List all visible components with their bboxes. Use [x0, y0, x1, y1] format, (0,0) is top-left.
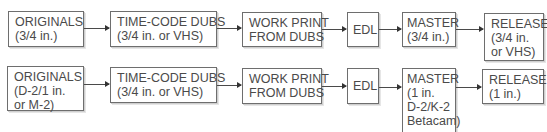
arrow-icon	[456, 87, 481, 88]
arrow-icon	[84, 28, 109, 29]
node-label: MASTER	[407, 72, 455, 86]
node-label: RELEASE	[489, 73, 543, 87]
node-sublabel: D-2/K-2	[407, 100, 455, 114]
node-label: WORK PRINT	[249, 72, 321, 86]
node-release-3-4-vhs: RELEASE (3/4 in. or VHS)	[484, 13, 544, 61]
node-sublabel: FROM DUBS	[249, 30, 321, 44]
node-label: TIME-CODE DUBS	[117, 15, 216, 29]
node-sublabel: (D-2/1 in.	[14, 84, 83, 98]
node-master-3-4: MASTER (3/4 in.)	[402, 12, 456, 47]
node-sublabel: (3/4 in.)	[407, 30, 455, 44]
node-release-1in: RELEASE (1 in.)	[482, 69, 544, 104]
node-work-print: WORK PRINT FROM DUBS	[242, 12, 322, 47]
node-time-code-dubs-2: TIME-CODE DUBS (3/4 in. or VHS)	[110, 67, 217, 103]
node-label: RELEASE	[491, 17, 543, 31]
node-label: MASTER	[407, 16, 455, 30]
node-originals-d2: ORIGINALS (D-2/1 in. or M-2)	[7, 66, 84, 111]
node-originals-3-4: ORIGINALS (3/4 in.)	[8, 11, 84, 47]
node-sublabel: or M-2)	[14, 98, 83, 112]
node-sublabel: Betacam)	[407, 114, 455, 128]
node-sublabel: (3/4 in.	[491, 31, 543, 45]
node-sublabel: or VHS)	[491, 45, 543, 59]
node-sublabel: FROM DUBS	[249, 86, 321, 100]
arrow-icon	[217, 85, 241, 86]
node-sublabel: (3/4 in.)	[15, 29, 83, 43]
arrow-icon	[217, 28, 241, 29]
arrow-icon	[84, 84, 109, 85]
arrow-icon	[322, 29, 346, 30]
node-sublabel: (1 in.)	[489, 87, 543, 101]
node-label: EDL	[353, 79, 378, 93]
node-label: EDL	[353, 23, 378, 37]
node-label: ORIGINALS	[15, 15, 83, 29]
node-sublabel: (1 in.	[407, 86, 455, 100]
node-time-code-dubs: TIME-CODE DUBS (3/4 in. or VHS)	[110, 11, 217, 47]
node-sublabel: (3/4 in. or VHS)	[117, 29, 216, 43]
node-sublabel: (3/4 in. or VHS)	[117, 85, 216, 99]
node-label: TIME-CODE DUBS	[117, 71, 216, 85]
arrow-icon	[322, 86, 346, 87]
arrow-icon	[456, 29, 483, 30]
arrow-icon	[379, 87, 401, 88]
arrow-icon	[379, 29, 401, 30]
node-edl-2: EDL	[347, 68, 379, 104]
node-label: ORIGINALS	[14, 70, 83, 84]
node-edl: EDL	[347, 12, 379, 47]
node-master-1in: MASTER (1 in. D-2/K-2 Betacam)	[402, 68, 456, 132]
node-work-print-2: WORK PRINT FROM DUBS	[242, 68, 322, 104]
node-label: WORK PRINT	[249, 16, 321, 30]
